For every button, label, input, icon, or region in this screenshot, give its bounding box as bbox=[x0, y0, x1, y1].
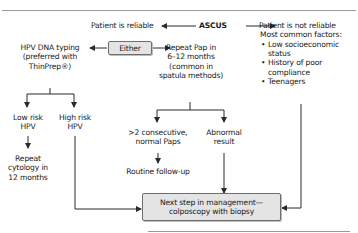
routine-follow-up-node: Routine follow-up bbox=[120, 167, 196, 176]
high-risk-hpv-node: High risk HPV bbox=[52, 113, 98, 132]
either-label: Either bbox=[109, 44, 151, 53]
factor-item: History of poorcompliance bbox=[260, 58, 339, 77]
factors-heading: Most common factors: bbox=[260, 30, 342, 39]
next-step-box: Next step in management— colposcopy with… bbox=[142, 193, 281, 221]
abnormal-result-node: Abnormal result bbox=[199, 128, 249, 147]
consecutive-normal-paps-node: >2 consecutive, normal Paps bbox=[122, 128, 194, 147]
low-risk-hpv-node: Low risk HPV bbox=[5, 113, 51, 132]
factor-item: Teenagers bbox=[260, 77, 339, 86]
repeat-cytology-node: Repeat cytology in 12 months bbox=[3, 154, 53, 182]
next-step-label: Next step in management— colposcopy with… bbox=[143, 198, 280, 217]
patient-reliable-label: Patient is reliable bbox=[91, 21, 154, 30]
either-box: Either bbox=[108, 41, 152, 55]
factor-item: Low socioeconomicstatus bbox=[260, 40, 339, 59]
ascus-root-label: ASCUS bbox=[199, 21, 227, 30]
factors-list: Low socioeconomicstatus History of poorc… bbox=[260, 40, 339, 87]
repeat-pap-node: Repeat Pap in 6–12 months (common in spa… bbox=[153, 43, 229, 81]
patient-not-reliable-label: Patient is not reliable bbox=[259, 21, 336, 30]
hpv-dna-typing-node: HPV DNA typing (preferred with ThinPrep®… bbox=[5, 43, 95, 71]
